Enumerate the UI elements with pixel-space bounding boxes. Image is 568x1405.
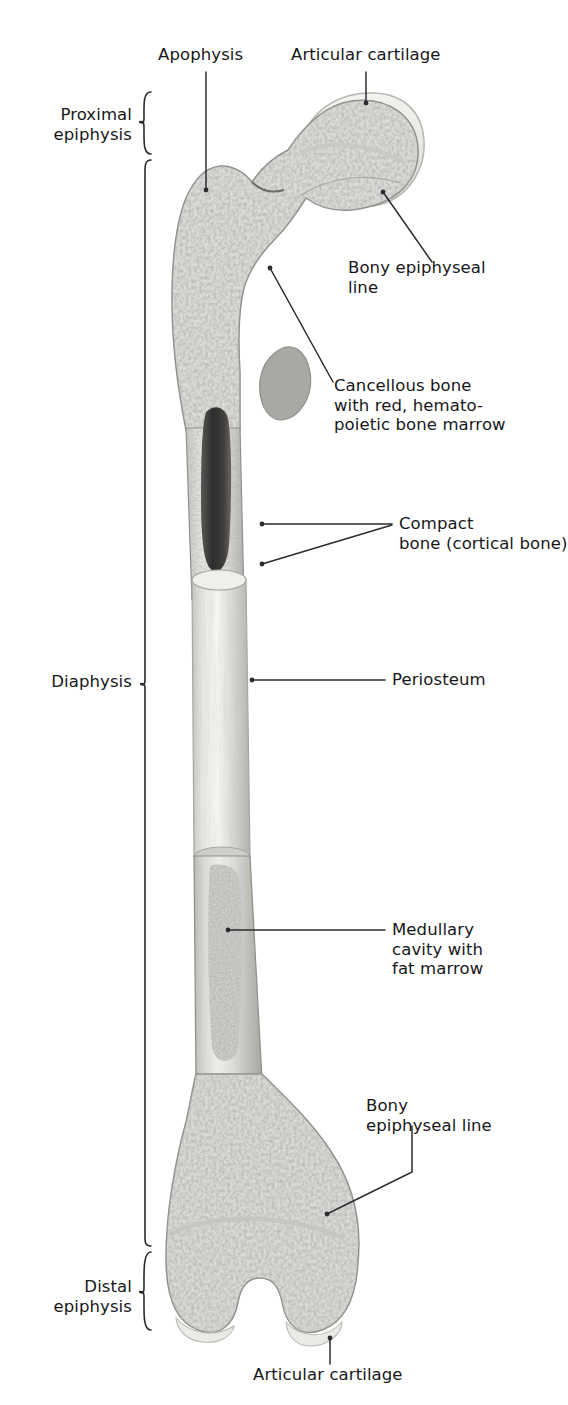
label-distal-epiphysis: Distal epiphysis (20, 1277, 132, 1316)
periosteum-sleeve (192, 570, 250, 867)
label-compact-bone: Compact bone (cortical bone) (399, 514, 568, 553)
label-proximal-epiphysis: Proximal epiphysis (20, 105, 132, 144)
distal-shaft (194, 856, 262, 1080)
fat-marrow-texture (208, 865, 241, 1061)
label-bony-epiphyseal-line-bottom: Bony epiphyseal line (366, 1096, 492, 1135)
distal-epiphysis-body (166, 1074, 359, 1346)
periosteum-cut-edge-top (192, 570, 246, 590)
label-periosteum: Periosteum (392, 670, 486, 690)
label-diaphysis: Diaphysis (20, 672, 132, 692)
label-medullary-cavity: Medullary cavity with fat marrow (392, 920, 483, 979)
lesser-trochanter (260, 347, 311, 420)
femur-illustration (0, 0, 568, 1405)
label-bony-epiphyseal-line-top: Bony epiphyseal line (348, 258, 486, 297)
label-articular-cartilage-bottom: Articular cartilage (253, 1365, 403, 1385)
label-articular-cartilage-top: Articular cartilage (291, 45, 441, 65)
red-bone-marrow-cavity (201, 407, 231, 571)
label-apophysis: Apophysis (158, 45, 243, 65)
figure-canvas: Proximal epiphysis Diaphysis Distal epip… (0, 0, 568, 1405)
label-cancellous-bone: Cancellous bone with red, hemato- poieti… (334, 376, 506, 435)
